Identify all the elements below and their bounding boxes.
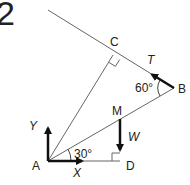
right-angle-D	[112, 153, 120, 161]
line-AB	[48, 88, 174, 161]
label-A: A	[32, 159, 40, 173]
label-force-Y: Y	[29, 119, 38, 133]
angle-arc-B	[158, 80, 160, 96]
label-B: B	[178, 82, 186, 96]
label-D: D	[126, 159, 135, 173]
label-force-T: T	[147, 53, 156, 67]
label-angle-B: 60°	[135, 81, 153, 95]
force-T-arrow	[152, 75, 174, 89]
label-C: C	[110, 35, 119, 49]
statics-diagram: C B M A D T W X Y 60° 30°	[0, 0, 190, 185]
label-force-X: X	[72, 166, 82, 180]
right-angle-C	[109, 60, 120, 67]
label-angle-A: 30°	[74, 147, 92, 161]
line-AC	[48, 55, 113, 161]
angle-arc-A	[68, 149, 71, 161]
label-M: M	[112, 104, 122, 118]
label-force-W: W	[128, 130, 141, 144]
